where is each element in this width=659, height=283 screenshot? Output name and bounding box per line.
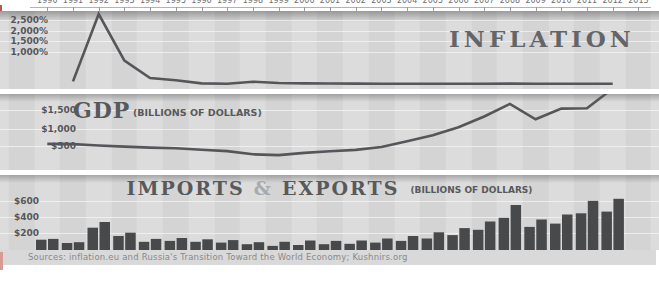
year-label: 2002	[343, 0, 369, 5]
year-label: 2011	[574, 0, 600, 5]
imports-bar	[370, 243, 381, 250]
year-label: 2010	[548, 0, 574, 5]
infographic-root: 1990199119921993199419951996199719981999…	[0, 0, 659, 283]
exports-bar	[562, 215, 573, 251]
exports-bar	[74, 242, 85, 250]
exports-bar	[434, 232, 445, 250]
left-edge-mark-top	[0, 5, 2, 11]
year-label: 2007	[471, 0, 497, 5]
exports-bar	[331, 241, 342, 250]
exports-bar	[613, 199, 624, 250]
imports-bar	[216, 243, 227, 250]
gdp-panel: $1,500 $1,000 $500 GDP (BILLIONS OF DOLL…	[0, 94, 659, 170]
exports-bar	[254, 242, 265, 250]
imports-bar	[422, 239, 433, 251]
imports-bar	[165, 241, 176, 250]
imports-bar	[139, 242, 150, 250]
exports-bar	[511, 205, 521, 250]
imports-bar	[113, 236, 124, 250]
year-axis-line	[30, 7, 651, 8]
year-axis: 1990199119921993199419951996199719981999…	[0, 0, 659, 11]
exports-bar	[356, 241, 367, 251]
exports-bar	[202, 239, 213, 250]
left-edge-mark-bottom	[0, 252, 3, 270]
year-label: 1996	[189, 0, 215, 5]
imports-bar	[576, 213, 587, 250]
year-label: 1992	[86, 0, 112, 5]
sources-text: Sources: inflation.eu and Russia's Trans…	[28, 252, 408, 262]
trade-bar-chart	[0, 175, 659, 250]
gdp-line-chart	[0, 94, 659, 170]
year-label: 1994	[137, 0, 163, 5]
year-label: 1990	[34, 0, 60, 5]
exports-bar	[279, 242, 290, 250]
imports-bar	[499, 218, 510, 250]
imports-bar	[396, 241, 407, 250]
year-label: 2013	[625, 0, 651, 5]
inflation-panel: 2,500% 2,000% 1,500% 1,000% INFLATION	[0, 11, 659, 89]
inflation-line-chart	[0, 11, 659, 89]
exports-bar	[177, 238, 188, 250]
exports-bar	[151, 239, 162, 250]
year-label: 1995	[163, 0, 189, 5]
exports-bar	[228, 240, 239, 250]
year-label: 2000	[291, 0, 317, 5]
imports-bar	[473, 230, 484, 250]
exports-bar	[100, 222, 111, 250]
imports-bar	[601, 212, 612, 250]
exports-bar	[408, 236, 419, 250]
exports-bar	[588, 201, 599, 250]
year-label: 1993	[111, 0, 137, 5]
imports-bar	[36, 240, 47, 250]
year-label: 2009	[523, 0, 549, 5]
year-label: 2008	[497, 0, 523, 5]
year-label: 1997	[214, 0, 240, 5]
year-label: 1998	[240, 0, 266, 5]
imports-bar	[550, 224, 561, 250]
trade-panel: IMPORTS & EXPORTS (BILLIONS OF DOLLARS) …	[0, 175, 659, 250]
year-label: 2003	[368, 0, 394, 5]
exports-bar	[485, 222, 496, 251]
imports-bar	[524, 227, 535, 250]
imports-bar	[62, 243, 73, 250]
year-label: 2005	[420, 0, 446, 5]
exports-bar	[48, 239, 59, 250]
year-label: 2006	[446, 0, 472, 5]
year-label: 1991	[60, 0, 86, 5]
imports-bar	[447, 235, 458, 250]
exports-bar	[459, 228, 470, 250]
exports-bar	[536, 220, 547, 251]
imports-bar	[190, 242, 201, 250]
year-label: 2012	[600, 0, 626, 5]
year-label: 1999	[266, 0, 292, 5]
sources-bar: Sources: inflation.eu and Russia's Trans…	[0, 250, 656, 265]
exports-bar	[305, 241, 316, 251]
exports-bar	[382, 239, 393, 251]
exports-bar	[125, 233, 136, 250]
year-label: 2001	[317, 0, 343, 5]
imports-bar	[88, 228, 99, 250]
year-label: 2004	[394, 0, 420, 5]
